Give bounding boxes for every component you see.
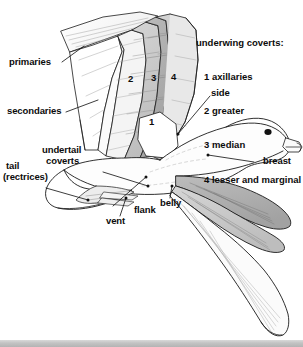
legend-underwing-coverts: underwing coverts: 1 axillaries 2 greate… <box>196 14 301 208</box>
legend-item-3: 3 median <box>196 139 301 150</box>
legend-heading: underwing coverts: <box>196 37 301 48</box>
legend-item-1: 1 axillaries <box>196 71 301 82</box>
label-tail-line1: tail <box>6 161 19 172</box>
label-vent: vent <box>106 216 125 227</box>
label-undertail-coverts-line2: coverts <box>46 156 79 167</box>
diagram-canvas: underwing coverts: 1 axillaries 2 greate… <box>0 0 303 347</box>
wing-number-2: 2 <box>128 73 133 84</box>
wing-number-3: 3 <box>151 72 156 83</box>
legend-item-4: 4 lesser and marginal <box>196 174 301 185</box>
label-side: side <box>211 88 230 99</box>
label-flank: flank <box>134 205 156 216</box>
label-undertail-coverts-line1: undertail <box>42 145 81 156</box>
label-tail-line2: (rectrices) <box>3 172 48 183</box>
wing-number-1: 1 <box>149 116 154 127</box>
label-secondaries: secondaries <box>7 106 61 117</box>
label-primaries: primaries <box>9 57 51 68</box>
legend-item-2: 2 greater <box>196 105 301 116</box>
label-belly: belly <box>160 198 181 209</box>
label-breast: breast <box>263 156 291 167</box>
bottom-gray-band <box>0 340 303 347</box>
wing-number-4: 4 <box>171 71 176 82</box>
